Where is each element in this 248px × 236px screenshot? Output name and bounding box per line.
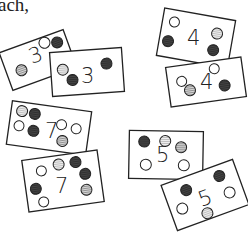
dot-dark: [101, 58, 113, 70]
dot-card-illustration: 3 3 4 4 7: [0, 0, 248, 236]
dot-empty: [178, 160, 189, 171]
dot-light-striped: [57, 64, 69, 76]
card-5-back-number: 5: [156, 143, 169, 167]
card-4-front-number: 4: [200, 70, 213, 94]
dot-dark: [67, 74, 79, 86]
card-7-front-number: 7: [55, 174, 68, 198]
card-4-back-number: 4: [187, 26, 200, 50]
card-7-back-number: 7: [45, 119, 58, 143]
card-3-front-number: 3: [81, 64, 94, 88]
dot-striped: [176, 142, 187, 153]
dot-dark: [139, 136, 150, 147]
dot-empty: [140, 159, 151, 170]
